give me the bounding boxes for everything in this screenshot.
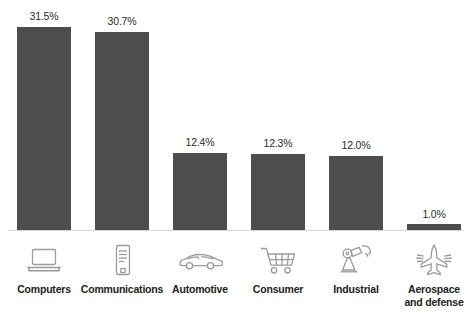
robot-arm-icon (317, 240, 395, 280)
value-label: 1.0% (395, 208, 470, 220)
car-icon (161, 240, 239, 280)
chart-column-communications: 30.7% Communications (83, 0, 161, 315)
chart-column-industrial: 12.0% Industrial (317, 0, 395, 315)
bar-aerospace[interactable] (407, 224, 461, 230)
category-label-automotive: Automotive (157, 283, 243, 296)
category-label-aerospace: Aerospace and defense (391, 283, 470, 308)
category-line-1: Automotive (172, 283, 228, 295)
bar-communications[interactable] (95, 32, 149, 230)
category-line-2: and defense (404, 296, 463, 308)
bar-computers[interactable] (17, 27, 71, 230)
category-label-computers: Computers (1, 283, 87, 296)
smartphone-icon (83, 240, 161, 280)
fighter-jet-icon (395, 240, 470, 280)
value-label: 30.7% (83, 15, 161, 27)
bar-automotive[interactable] (173, 153, 227, 230)
chart-column-consumer: 12.3% Consumer (239, 0, 317, 315)
bar-consumer[interactable] (251, 154, 305, 230)
category-line-1: Communications (81, 283, 163, 295)
chart-column-aerospace: 1.0% Aerospace and defense (395, 0, 470, 315)
value-label: 31.5% (5, 10, 83, 22)
value-label: 12.3% (239, 137, 317, 149)
value-label: 12.4% (161, 136, 239, 148)
value-label: 12.0% (317, 139, 395, 151)
chart-column-computers: 31.5% Computers (5, 0, 83, 315)
shopping-cart-icon (239, 240, 317, 280)
category-line-1: Industrial (333, 283, 378, 295)
bar-chart: 31.5% Computers 30.7% (0, 0, 470, 315)
category-label-communications: Communications (79, 283, 165, 296)
category-line-1: Consumer (253, 283, 303, 295)
category-label-consumer: Consumer (235, 283, 321, 296)
laptop-icon (5, 240, 83, 280)
category-label-industrial: Industrial (313, 283, 399, 296)
chart-column-automotive: 12.4% Automotive (161, 0, 239, 315)
category-line-1: Aerospace (408, 283, 460, 295)
category-line-1: Computers (17, 283, 71, 295)
bar-industrial[interactable] (329, 156, 383, 230)
